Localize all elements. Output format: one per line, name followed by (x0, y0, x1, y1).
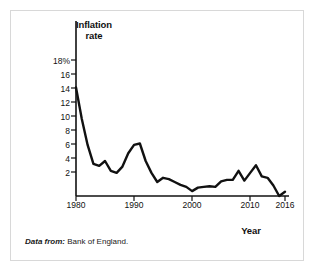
chart-figure: Inflation rate Year 18% 16 14 12 10 8 6 … (10, 10, 304, 261)
chart-plot-area: Inflation rate Year 18% 16 14 12 10 8 6 … (11, 11, 305, 262)
source-caption: Data from: Bank of England. (25, 237, 128, 246)
inflation-rate-line (76, 88, 285, 197)
source-caption-lead: Data from: (25, 237, 65, 246)
chart-svg (11, 11, 305, 262)
source-caption-text: Bank of England. (65, 237, 128, 246)
